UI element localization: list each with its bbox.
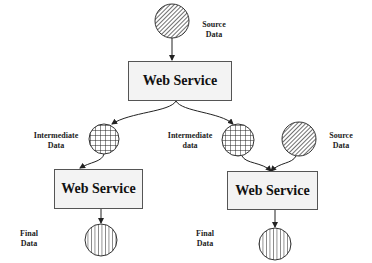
label-final-data-right: Final Data xyxy=(190,229,220,249)
source-data-circle-top xyxy=(155,4,189,38)
arrow-right-source-to-service xyxy=(271,156,296,171)
label-source-data-right: Source Data xyxy=(323,131,359,151)
final-data-circle-left xyxy=(85,224,117,256)
final-data-circle-right xyxy=(259,228,291,260)
web-service-label: Web Service xyxy=(143,73,217,89)
label-source-data-top: Source Data xyxy=(196,20,232,40)
arrow-top-to-left-intermediate xyxy=(112,101,176,124)
intermediate-data-circle-right xyxy=(222,124,254,156)
label-intermediate-data-right: Intermediate data xyxy=(162,131,218,151)
label-final-data-left: Final Data xyxy=(14,229,44,249)
web-service-box-right: Web Service xyxy=(227,171,318,210)
web-service-box-top: Web Service xyxy=(128,61,232,101)
arrow-left-intermediate-to-service xyxy=(80,154,104,168)
source-data-circle-right xyxy=(282,122,316,156)
web-service-label: Web Service xyxy=(61,181,135,197)
intermediate-data-circle-left xyxy=(89,124,119,154)
web-service-label: Web Service xyxy=(235,183,309,199)
arrow-right-intermediate-to-service xyxy=(242,156,271,171)
arrow-top-to-right-intermediate xyxy=(176,101,233,124)
label-intermediate-data-left: Intermediate Data xyxy=(28,131,84,151)
web-service-box-left: Web Service xyxy=(54,169,143,209)
